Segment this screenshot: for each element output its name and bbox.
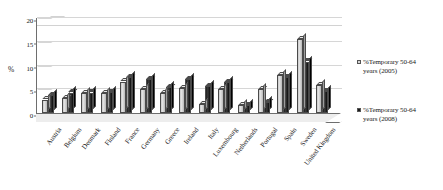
bar-side (146, 83, 149, 110)
x-axis-labels: AustriaBelgiumDenmarkFinlandFranceGerman… (36, 126, 356, 188)
chart-container: % 05101520 AustriaBelgiumDenmarkFinlandF… (0, 0, 443, 190)
bar-side (211, 80, 214, 110)
bar (316, 85, 322, 113)
bar-side (303, 33, 306, 110)
x-label-italy: Italy (206, 126, 220, 141)
bar-side (250, 98, 253, 109)
bar-side (165, 87, 168, 110)
bar (179, 88, 185, 113)
bar-side (54, 89, 57, 110)
bar-group (179, 18, 191, 113)
bar (258, 89, 264, 113)
bar-side (113, 86, 116, 110)
bar-group (238, 18, 250, 113)
bar-group (199, 18, 211, 113)
bar-face (140, 89, 146, 113)
y-axis-ticks: 05101520 (14, 12, 36, 125)
bar (120, 82, 126, 113)
bar-side (230, 76, 233, 110)
bar (218, 89, 224, 113)
bar-face (199, 104, 205, 113)
legend-label-line1: %Temporary 50-64 (363, 106, 416, 115)
x-label-spain: Spain (283, 126, 299, 143)
bar (277, 75, 283, 113)
bar-side (283, 69, 286, 110)
bar-side (322, 79, 325, 110)
legend-swatch-icon (357, 60, 361, 64)
bar-face (101, 93, 107, 113)
y-tick-20: 20 (26, 18, 33, 25)
legend-item-2005: %Temporary 50-64years (2005) (357, 58, 441, 76)
bar-face (258, 89, 264, 113)
legend-label: %Temporary 50-64years (2008) (363, 106, 416, 124)
bars-layer (36, 18, 342, 113)
bar (62, 98, 68, 113)
bar-group (42, 18, 54, 113)
legend-label: %Temporary 50-64years (2005) (363, 58, 416, 76)
bar-side (152, 72, 155, 109)
y-tick-0: 0 (30, 113, 33, 120)
bar (42, 100, 48, 113)
legend-item-2008: %Temporary 50-64years (2008) (357, 106, 441, 124)
bar-side (73, 86, 76, 110)
bar-face (277, 75, 283, 113)
bar-group (62, 18, 74, 113)
bar-group (218, 18, 230, 113)
bar (81, 93, 87, 113)
bar-side (48, 93, 51, 110)
legend-label-line1: %Temporary 50-64 (363, 58, 416, 67)
bar-face (238, 105, 244, 113)
y-tick-10: 10 (26, 65, 33, 72)
bar (140, 89, 146, 113)
bar-group (160, 18, 172, 113)
x-label-austria: Austria (45, 126, 64, 147)
bar-side (67, 91, 70, 109)
bar-face (179, 88, 185, 113)
bar-side (191, 73, 194, 110)
bar-side (328, 85, 331, 110)
bar-side (107, 87, 110, 110)
bar-side (87, 87, 90, 110)
plot-area (36, 18, 342, 122)
chart-legend: %Temporary 50-64years (2005)%Temporary 5… (357, 58, 441, 154)
bar-group (140, 18, 152, 113)
bar-side (289, 71, 292, 110)
bar-face (62, 98, 68, 113)
x-label-greece: Greece (163, 126, 181, 146)
x-label-germany: Germany (139, 126, 161, 151)
bar-face (218, 89, 224, 113)
bar-group (101, 18, 113, 113)
bar (199, 104, 205, 113)
bar-side (269, 96, 272, 110)
bar-side (126, 75, 129, 110)
bar-side (171, 81, 174, 110)
bar-group (277, 18, 289, 113)
x-label-france: France (124, 126, 142, 145)
bar-face (81, 93, 87, 113)
bar-face (160, 93, 166, 113)
bar-face (297, 39, 303, 113)
bar-group (297, 18, 309, 113)
bar-side (224, 83, 227, 110)
legend-label-line2: years (2005) (363, 67, 416, 76)
bar-group (120, 18, 132, 113)
bar (160, 93, 166, 113)
bar (101, 93, 107, 113)
legend-label-line2: years (2008) (363, 115, 416, 124)
bar-face (316, 85, 322, 113)
bar-face (120, 82, 126, 113)
bar-side (309, 55, 312, 110)
bar (297, 39, 303, 113)
bar-side (93, 86, 96, 110)
y-tick-15: 15 (26, 41, 33, 48)
x-label-finland: Finland (103, 126, 122, 147)
bar-side (185, 82, 188, 110)
bar-side (263, 83, 266, 110)
chart-floor (36, 113, 342, 122)
bar-group (81, 18, 93, 113)
bar (238, 105, 244, 113)
x-label-denmark: Denmark (81, 126, 103, 151)
y-tick-5: 5 (30, 89, 33, 96)
bar-face (42, 100, 48, 113)
x-label-portugal: Portugal (258, 126, 278, 149)
